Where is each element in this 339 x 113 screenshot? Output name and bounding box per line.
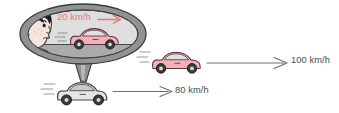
scene-illustration: [0, 0, 339, 113]
outside-car-hub-front: [190, 67, 194, 71]
own-car-speed-label: 80 km/h: [175, 86, 209, 95]
own-car-hub-front: [97, 98, 101, 102]
outside-car-motion-lines: [137, 52, 150, 62]
own-white-car: [41, 83, 107, 105]
mirror-car-hub-front: [108, 43, 112, 47]
own-car-hub-rear: [65, 98, 69, 102]
mirror-relative-speed-label: 20 km/h: [57, 13, 91, 22]
own-speed-arrow-icon: [113, 87, 172, 97]
mirror-car-hub-rear: [77, 43, 81, 47]
other-speed-arrow-icon: [207, 58, 287, 69]
outside-pink-car: [137, 52, 200, 73]
outside-car-hub-rear: [159, 67, 163, 71]
figure-root: 20 km/h 80 km/h 100 km/h: [0, 0, 339, 113]
own-car-motion-lines: [41, 84, 55, 94]
other-car-speed-label: 100 km/h: [291, 56, 330, 65]
boy-eye: [43, 24, 46, 28]
